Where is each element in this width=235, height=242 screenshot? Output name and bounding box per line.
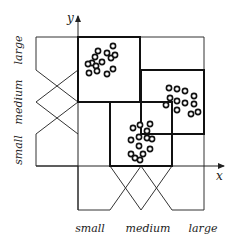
data-point <box>99 59 104 64</box>
data-point <box>85 61 90 66</box>
cluster-top-left <box>85 43 117 76</box>
data-point <box>94 68 99 73</box>
x-membership-functions <box>78 166 204 210</box>
data-point <box>149 136 154 141</box>
x-term-medium: medium <box>125 222 170 235</box>
data-point <box>144 128 149 133</box>
data-point <box>195 109 200 114</box>
x-axis-label: x <box>216 169 223 183</box>
data-point <box>167 95 172 100</box>
data-point <box>95 48 100 53</box>
y-axis-label: y <box>66 11 74 25</box>
data-point <box>166 85 171 90</box>
data-point <box>182 100 187 105</box>
y-mf-large <box>36 37 78 102</box>
y-membership-functions <box>36 37 78 166</box>
data-point <box>174 86 179 91</box>
x-mf-large <box>141 166 204 210</box>
data-point <box>136 134 141 139</box>
data-point <box>104 71 109 76</box>
cluster-center <box>128 121 154 162</box>
data-point <box>130 125 135 130</box>
data-point <box>137 122 142 127</box>
data-point <box>86 70 91 75</box>
data-point <box>110 66 115 71</box>
data-point <box>140 151 145 156</box>
x-term-large: large <box>189 222 218 235</box>
grid-lines <box>36 37 204 210</box>
data-point <box>191 101 196 106</box>
data-point <box>191 93 196 98</box>
fuzzy-rule-diagram: y x small medium large small medium larg… <box>0 0 235 242</box>
x-term-small: small <box>75 222 105 235</box>
data-point <box>104 50 109 55</box>
data-point <box>174 107 179 112</box>
rule-box-small-large <box>78 37 140 102</box>
data-point <box>174 98 179 103</box>
y-mf-medium <box>36 70 78 134</box>
data-point <box>110 43 115 48</box>
data-point <box>128 137 133 142</box>
data-point <box>147 146 152 151</box>
y-term-medium: medium <box>12 79 25 124</box>
data-point <box>136 143 141 148</box>
data-point <box>92 54 97 59</box>
data-point <box>112 52 117 57</box>
data-point <box>163 102 168 107</box>
data-point <box>137 157 142 162</box>
x-mf-small <box>78 166 141 210</box>
y-mf-small <box>36 102 78 166</box>
cluster-right <box>163 85 200 116</box>
y-term-large: large <box>12 35 25 64</box>
y-term-small: small <box>12 135 25 165</box>
data-point <box>188 111 193 116</box>
data-point <box>147 121 152 126</box>
x-mf-medium <box>110 166 172 210</box>
data-point <box>182 88 187 93</box>
